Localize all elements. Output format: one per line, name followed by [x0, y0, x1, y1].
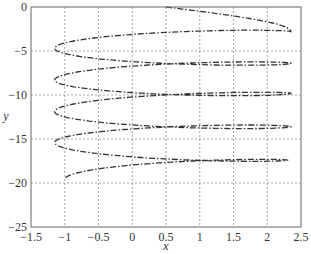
y-tick-label: −25 — [8, 220, 27, 234]
x-tick-label: 1.5 — [226, 230, 241, 244]
x-tick-label: 0 — [129, 230, 135, 244]
x-tick-label: 2.5 — [294, 230, 309, 244]
y-tick-label: 0 — [21, 0, 27, 14]
grid-lines — [31, 7, 301, 227]
y-tick-label: −5 — [14, 44, 27, 58]
y-axis-ticks: 0−5−10−15−20−25 — [8, 0, 27, 234]
x-tick-label: 1 — [197, 230, 203, 244]
y-tick-label: −10 — [8, 88, 27, 102]
x-tick-label: 2 — [264, 230, 270, 244]
spiral-line — [55, 7, 291, 180]
y-axis-label: y — [2, 109, 9, 123]
spiral-line-chart: −1.5−1−0.500.511.522.5 0−5−10−15−20−25 x… — [0, 0, 311, 254]
y-tick-label: −15 — [8, 132, 27, 146]
spiral-curve — [55, 7, 291, 180]
y-tick-label: −20 — [8, 176, 27, 190]
x-axis-label: x — [162, 239, 169, 253]
x-tick-label: −1 — [58, 230, 71, 244]
x-tick-label: −0.5 — [88, 230, 110, 244]
